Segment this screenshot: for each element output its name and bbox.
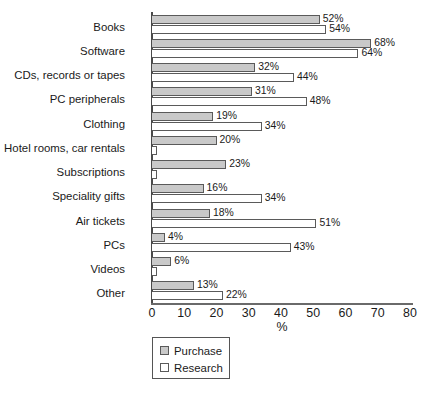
bar-value-label: 54%: [329, 24, 350, 33]
bar-purchase: [152, 15, 320, 24]
chart-category-row: Air tickets18%51%: [152, 208, 410, 232]
bar-value-label: 51%: [319, 218, 340, 227]
bar-value-label: 64%: [361, 48, 382, 57]
bar-purchase: [152, 160, 226, 169]
chart-category-row: Hotel rooms, car rentals20%: [152, 135, 410, 159]
chart-category-row: Videos6%: [152, 257, 410, 281]
bar-research: [152, 194, 262, 203]
legend-swatch-research-icon: [160, 363, 169, 372]
category-label: Other: [0, 287, 125, 299]
bar-purchase: [152, 87, 252, 96]
bar-chart: Books52%54%Software68%64%CDs, records or…: [0, 0, 431, 393]
category-label: PCs: [0, 239, 125, 251]
bar-purchase: [152, 209, 210, 218]
bar-purchase: [152, 63, 255, 72]
chart-category-row: Speciality gifts16%34%: [152, 184, 410, 208]
category-label: Subscriptions: [0, 166, 125, 178]
category-label: Speciality gifts: [0, 190, 125, 202]
category-label: Books: [0, 21, 125, 33]
bar-value-label: 22%: [226, 290, 247, 299]
bar-purchase: [152, 281, 194, 290]
bar-research: [152, 49, 358, 58]
legend-item-purchase: Purchase: [160, 342, 229, 359]
bar-value-label: 34%: [265, 193, 286, 202]
chart-category-row: Subscriptions23%: [152, 160, 410, 184]
bar-research: [152, 267, 157, 276]
category-label: Air tickets: [0, 215, 125, 227]
bar-purchase: [152, 233, 165, 242]
bar-value-label: 23%: [229, 159, 250, 168]
bar-value-label: 6%: [174, 256, 189, 265]
bar-value-label: 48%: [310, 96, 331, 105]
chart-category-row: Clothing19%34%: [152, 111, 410, 135]
category-label: CDs, records or tapes: [0, 69, 125, 81]
bar-research: [152, 25, 326, 34]
bar-value-label: 44%: [297, 72, 318, 81]
plot-area: Books52%54%Software68%64%CDs, records or…: [152, 12, 410, 303]
category-label: PC peripherals: [0, 93, 125, 105]
chart-category-row: PC peripherals31%48%: [152, 87, 410, 111]
x-axis-title: %: [262, 320, 302, 334]
chart-category-row: Other13%22%: [152, 281, 410, 305]
bar-research: [152, 219, 316, 228]
bar-purchase: [152, 184, 204, 193]
bar-research: [152, 122, 262, 131]
bar-purchase: [152, 39, 371, 48]
chart-category-row: PCs4%43%: [152, 232, 410, 256]
bar-value-label: 52%: [323, 14, 344, 23]
bar-value-label: 20%: [220, 135, 241, 144]
bar-value-label: 13%: [197, 280, 218, 289]
bar-research: [152, 243, 291, 252]
category-label: Clothing: [0, 118, 125, 130]
bar-value-label: 31%: [255, 86, 276, 95]
chart-legend: Purchase Research: [152, 337, 230, 379]
bar-value-label: 4%: [168, 232, 183, 241]
category-label: Software: [0, 45, 125, 57]
chart-category-row: CDs, records or tapes32%44%: [152, 63, 410, 87]
bar-value-label: 34%: [265, 121, 286, 130]
legend-label-research: Research: [174, 362, 223, 374]
bar-research: [152, 170, 157, 179]
bar-research: [152, 97, 307, 106]
bar-purchase: [152, 257, 171, 266]
x-tick-label: 80: [390, 306, 430, 320]
chart-category-row: Books52%54%: [152, 14, 410, 38]
legend-item-research: Research: [160, 359, 229, 376]
bar-value-label: 32%: [258, 62, 279, 71]
bar-research: [152, 73, 294, 82]
bar-value-label: 16%: [207, 183, 228, 192]
bar-research: [152, 291, 223, 300]
category-label: Hotel rooms, car rentals: [0, 142, 125, 154]
bar-value-label: 43%: [294, 242, 315, 251]
bar-purchase: [152, 136, 217, 145]
bar-research: [152, 146, 157, 155]
bar-value-label: 68%: [374, 38, 395, 47]
bar-value-label: 18%: [213, 208, 234, 217]
legend-swatch-purchase-icon: [160, 346, 169, 355]
category-label: Videos: [0, 263, 125, 275]
chart-category-row: Software68%64%: [152, 38, 410, 62]
legend-label-purchase: Purchase: [174, 345, 222, 357]
bar-value-label: 19%: [216, 111, 237, 120]
bar-purchase: [152, 112, 213, 121]
